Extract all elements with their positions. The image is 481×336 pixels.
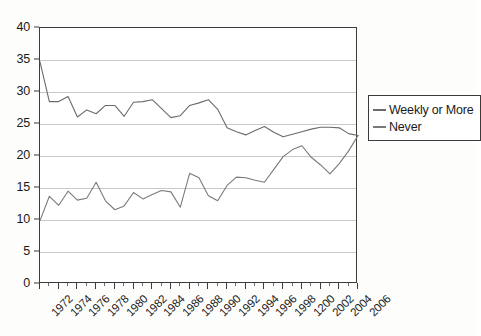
y-axis-tick-label: 0 bbox=[23, 276, 30, 290]
chart-legend: Weekly or More Never bbox=[368, 95, 481, 141]
x-axis-minor-tick-mark bbox=[161, 283, 162, 286]
legend-swatch-weekly-or-more bbox=[373, 109, 386, 111]
y-axis-tick-label: 20 bbox=[16, 148, 30, 162]
x-axis-tick-mark bbox=[282, 283, 283, 289]
y-axis-tick-label: 15 bbox=[16, 180, 30, 194]
x-axis-tick-mark bbox=[189, 283, 190, 289]
x-axis-tick-mark bbox=[320, 283, 321, 289]
x-axis-minor-tick-mark bbox=[348, 283, 349, 286]
legend-label-weekly-or-more: Weekly or More bbox=[389, 103, 474, 117]
x-axis-tick-mark bbox=[263, 283, 264, 289]
x-axis-tick-mark bbox=[226, 283, 227, 289]
series-lines bbox=[40, 28, 358, 284]
legend-label-never: Never bbox=[389, 120, 421, 134]
x-axis-tick-mark bbox=[357, 283, 358, 289]
x-axis-tick-mark bbox=[114, 283, 115, 289]
x-axis-minor-tick-mark bbox=[310, 283, 311, 286]
x-axis-minor-tick-mark bbox=[273, 283, 274, 286]
x-axis-minor-tick-mark bbox=[104, 283, 105, 286]
x-axis-tick-mark bbox=[207, 283, 208, 289]
x-axis-minor-tick-mark bbox=[198, 283, 199, 286]
x-axis-tick-mark bbox=[170, 283, 171, 289]
x-axis: 1972197419761978198019821984198619881990… bbox=[39, 283, 357, 336]
x-axis-minor-tick-mark bbox=[123, 283, 124, 286]
legend-item-weekly-or-more: Weekly or More bbox=[373, 101, 474, 118]
y-axis-tick-label: 35 bbox=[16, 52, 30, 66]
x-axis-tick-mark bbox=[151, 283, 152, 289]
series-line bbox=[40, 62, 358, 137]
x-axis-minor-tick-mark bbox=[292, 283, 293, 286]
y-axis-tick-label: 5 bbox=[23, 244, 30, 258]
legend-item-never: Never bbox=[373, 118, 474, 135]
y-axis-tick-label: 40 bbox=[16, 20, 30, 34]
x-axis-minor-tick-mark bbox=[254, 283, 255, 286]
x-axis-minor-tick-mark bbox=[217, 283, 218, 286]
x-axis-minor-tick-mark bbox=[235, 283, 236, 286]
x-axis-minor-tick-mark bbox=[48, 283, 49, 286]
x-axis-tick-mark bbox=[133, 283, 134, 289]
x-axis-tick-mark bbox=[39, 283, 40, 289]
x-axis-minor-tick-mark bbox=[329, 283, 330, 286]
legend-swatch-never bbox=[373, 126, 386, 128]
series-line bbox=[40, 136, 358, 221]
y-axis: 0510152025303540 bbox=[0, 0, 39, 336]
y-axis-tick-label: 30 bbox=[16, 84, 30, 98]
x-axis-tick-mark bbox=[58, 283, 59, 289]
x-axis-minor-tick-mark bbox=[179, 283, 180, 286]
plot-area bbox=[39, 27, 357, 283]
x-axis-tick-mark bbox=[95, 283, 96, 289]
x-axis-tick-mark bbox=[245, 283, 246, 289]
y-axis-tick-label: 25 bbox=[16, 116, 30, 130]
x-axis-tick-label: 2006 bbox=[368, 291, 394, 317]
x-axis-minor-tick-mark bbox=[86, 283, 87, 286]
x-axis-minor-tick-mark bbox=[142, 283, 143, 286]
y-axis-tick-label: 10 bbox=[16, 212, 30, 226]
x-axis-tick-mark bbox=[301, 283, 302, 289]
x-axis-tick-mark bbox=[76, 283, 77, 289]
x-axis-tick-mark bbox=[338, 283, 339, 289]
x-axis-minor-tick-mark bbox=[67, 283, 68, 286]
